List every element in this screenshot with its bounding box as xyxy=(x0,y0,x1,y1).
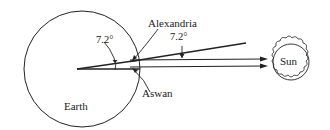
angle-arc-arrow xyxy=(113,60,118,63)
alexandria-label: Alexandria xyxy=(148,18,197,29)
arrow-head-1 xyxy=(260,57,268,62)
angle-center-label: 7.2° xyxy=(96,35,113,46)
aswan-label: Aswan xyxy=(142,88,173,99)
angle-rays-label: 7.2° xyxy=(170,32,187,43)
sun-label: Sun xyxy=(280,56,297,67)
angle-ray-arrow xyxy=(180,54,185,58)
sun-ray-aswan xyxy=(130,66,265,67)
sun-ray-alexandria xyxy=(130,59,265,60)
alexandria-pointer xyxy=(134,29,158,59)
earth-label: Earth xyxy=(64,101,88,112)
arrow-head-2 xyxy=(260,64,268,69)
angle-arc-center xyxy=(104,42,116,70)
